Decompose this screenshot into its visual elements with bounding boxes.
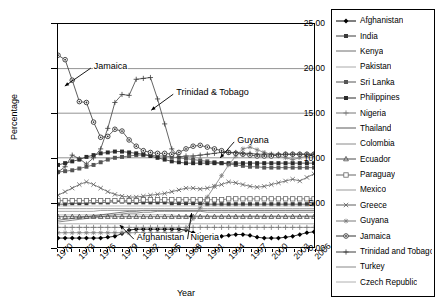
legend-item-pakistan[interactable]: Pakistan: [335, 59, 432, 74]
chart-screenshot: 0.005.0010.0015.0020.0025.00 Percentage …: [0, 0, 440, 306]
legend-item-colombia[interactable]: Colombia: [335, 136, 432, 151]
legend-label: Philippines: [357, 93, 400, 102]
y-tick-label: 25.00: [279, 19, 325, 28]
legend-label: Afghanistan: [357, 16, 403, 25]
legend-label: Czech Republic: [357, 278, 417, 287]
legend-marker-icon: [335, 45, 357, 57]
y-tick-mark: [51, 113, 57, 114]
legend-item-philippines[interactable]: Philippines: [335, 90, 432, 105]
legend-marker-icon: [335, 138, 357, 150]
legend-item-india[interactable]: India: [335, 28, 432, 43]
y-tick-label: 10.00: [279, 154, 325, 163]
legend-label: Ecuador: [357, 155, 391, 164]
y-axis-label: Percentage: [9, 77, 19, 157]
legend-marker-icon: [335, 169, 357, 181]
legend-label: Mexico: [357, 185, 386, 194]
legend-item-sri-lanka[interactable]: Sri Lanka: [335, 75, 432, 90]
legend-item-jamaica[interactable]: Jamaica: [335, 228, 432, 243]
legend-label: Nigeria: [357, 109, 386, 118]
legend-marker-icon: [335, 276, 357, 288]
legend-item-mexico[interactable]: Mexico: [335, 182, 432, 197]
series-line: [58, 174, 314, 197]
legend-item-ecuador[interactable]: Ecuador: [335, 152, 432, 167]
chart-canvas: 0.005.0010.0015.0020.0025.00 Percentage …: [0, 0, 325, 306]
legend-marker-icon: [335, 30, 357, 42]
legend-label: Paraguay: [357, 170, 395, 179]
legend-marker-icon: [335, 122, 357, 134]
legend-marker-icon: [335, 261, 357, 273]
legend: AfghanistanIndiaKenyaPakistanSri LankaPh…: [331, 9, 435, 297]
legend-item-afghanistan[interactable]: Afghanistan: [335, 13, 432, 28]
legend-marker-icon: [335, 153, 357, 165]
legend-item-greece[interactable]: Greece: [335, 198, 432, 213]
legend-item-kenya[interactable]: Kenya: [335, 44, 432, 59]
legend-marker-icon: [335, 15, 357, 27]
legend-label: Greece: [357, 201, 387, 210]
legend-marker-icon: [335, 215, 357, 227]
legend-marker-icon: [335, 184, 357, 196]
legend-label: Thailand: [357, 124, 391, 133]
legend-label: Colombia: [357, 139, 395, 148]
y-tick-mark: [51, 68, 57, 69]
legend-marker-icon: [335, 107, 357, 119]
x-axis: 1970197319761979198219851988199119941997…: [57, 249, 315, 289]
legend-marker-icon: [335, 76, 357, 88]
annotation-label: Nigeria: [190, 233, 221, 242]
legend-item-nigeria[interactable]: Nigeria: [335, 105, 432, 120]
legend-label: Trinidad and Tobago: [357, 247, 432, 256]
legend-label: Sri Lanka: [357, 78, 395, 87]
y-tick-mark: [51, 23, 57, 24]
legend-item-czech-republic[interactable]: Czech Republic: [335, 275, 432, 290]
annotation-label: Trinidad & Tobago: [175, 88, 250, 97]
plot-area: [57, 23, 315, 248]
legend-marker-icon: [335, 199, 357, 211]
legend-label: Guyana: [357, 216, 389, 225]
legend-marker-icon: [335, 230, 357, 242]
y-tick-label: 5.00: [279, 199, 325, 208]
legend-item-paraguay[interactable]: Paraguay: [335, 167, 432, 182]
y-tick-label: 20.00: [279, 64, 325, 73]
legend-label: Kenya: [357, 47, 383, 56]
legend-marker-icon: [335, 246, 357, 258]
annotation-label: Guyana: [236, 136, 270, 145]
series-lines: [58, 24, 314, 247]
legend-item-trinidad-and-tobago[interactable]: Trinidad and Tobago: [335, 244, 432, 259]
x-axis-label: Year: [57, 288, 315, 298]
legend-item-thailand[interactable]: Thailand: [335, 121, 432, 136]
annotation-label: Afghanistan: [136, 233, 186, 242]
legend-marker-icon: [335, 61, 357, 73]
legend-marker-icon: [335, 92, 357, 104]
legend-label: Turkey: [357, 262, 385, 271]
legend-label: Jamaica: [357, 232, 391, 241]
legend-label: India: [357, 32, 378, 41]
legend-item-guyana[interactable]: Guyana: [335, 213, 432, 228]
annotation-label: Jamaica: [93, 62, 129, 71]
y-tick-label: 15.00: [279, 109, 325, 118]
y-tick-mark: [51, 158, 57, 159]
y-tick-mark: [51, 203, 57, 204]
legend-label: Pakistan: [357, 62, 391, 71]
legend-item-turkey[interactable]: Turkey: [335, 259, 432, 274]
